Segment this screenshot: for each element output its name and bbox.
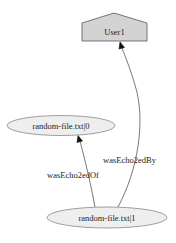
node-user1[interactable]: User1 bbox=[82, 13, 147, 41]
edge-label-was-echo2ed-by: wasEcho2edBy bbox=[103, 155, 157, 165]
node-random-file-0[interactable]: random-file.txt|0 bbox=[7, 116, 115, 136]
edge-label-was-echo2ed-of: wasEcho2edOf bbox=[47, 170, 99, 180]
node-label-random-file-0: random-file.txt|0 bbox=[32, 121, 89, 131]
arrowhead-icon bbox=[77, 136, 83, 143]
arrowhead-icon bbox=[119, 42, 125, 49]
edge-line-was-echo2ed-by bbox=[118, 48, 140, 207]
provenance-graph: wasEcho2edOf wasEcho2edBy User1 random-f… bbox=[0, 0, 176, 243]
node-label-user1: User1 bbox=[104, 27, 124, 37]
node-label-random-file-1: random-file.txt|1 bbox=[78, 213, 135, 223]
node-random-file-1[interactable]: random-file.txt|1 bbox=[47, 207, 167, 228]
edge-was-echo2ed-of[interactable]: wasEcho2edOf bbox=[47, 136, 99, 208]
